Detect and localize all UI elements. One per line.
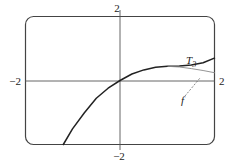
series-t3-line xyxy=(63,58,215,145)
y-bottom-tick-label: −2 xyxy=(113,150,125,162)
x-left-tick-label: −2 xyxy=(9,75,21,87)
t3-label: T3 xyxy=(186,54,196,69)
x-right-tick-label: 2 xyxy=(219,75,225,87)
y-top-tick-label: 2 xyxy=(114,2,120,14)
series-layer xyxy=(63,58,215,145)
chart: 2 −2 −2 2 T3 f xyxy=(0,0,238,167)
